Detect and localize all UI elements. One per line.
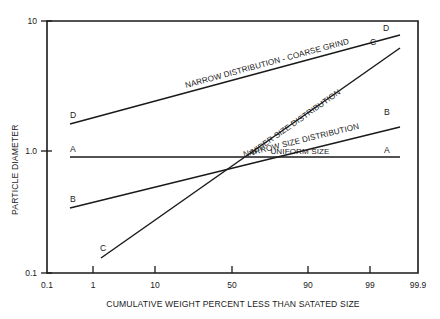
x-tick-label-0point1: 0.1	[41, 280, 53, 290]
chart-container: 10 1.0 0.1 PARTICLE DIAMETER 0.1 1 10 50…	[0, 0, 440, 319]
y-tick-label-1: 1.0	[25, 146, 37, 156]
x-tick-label-99: 99	[365, 280, 375, 290]
series-D-annotation: NARROW DISTRIBUTION - COARSE GRIND	[184, 37, 350, 90]
particle-size-distribution-chart: 10 1.0 0.1 PARTICLE DIAMETER 0.1 1 10 50…	[0, 0, 440, 319]
x-tick-label-10: 10	[150, 280, 160, 290]
plot-border	[47, 21, 418, 273]
x-tick-label-50: 50	[227, 280, 237, 290]
series-A-label-right: A	[384, 145, 390, 155]
series-D-line	[70, 35, 400, 124]
series-B-label-right: B	[384, 107, 390, 117]
x-axis-title: CUMULATIVE WEIGHT PERCENT LESS THAN SATA…	[106, 299, 360, 309]
series-D-label-left: D	[70, 110, 76, 120]
x-axis-tick-labels: 0.1 1 10 50 90 99 99.9	[41, 280, 426, 290]
x-tick-label-99point9: 99.9	[410, 280, 427, 290]
series-D: D D NARROW DISTRIBUTION - COARSE GRIND	[70, 23, 400, 124]
series-C-label-right: C	[370, 37, 376, 47]
series-B-label-left: B	[70, 194, 76, 204]
series-A: A A UNIFORM SIZE	[70, 144, 400, 157]
series-B-line	[70, 127, 400, 208]
plot-frame	[47, 21, 418, 273]
y-tick-label-0point1: 0.1	[25, 268, 37, 278]
x-tick-label-90: 90	[303, 280, 313, 290]
y-axis-title: PARTICLE DIAMETER	[10, 124, 20, 215]
series-A-label-left: A	[70, 144, 76, 154]
x-axis-ticks	[93, 266, 370, 273]
series-A-annotation: UNIFORM SIZE	[270, 147, 330, 156]
y-axis-tick-labels: 10 1.0 0.1	[25, 16, 37, 278]
series-C-label-left: C	[100, 243, 106, 253]
series-D-label-right: D	[383, 23, 389, 33]
y-tick-label-10: 10	[28, 16, 38, 26]
x-tick-label-1: 1	[91, 280, 96, 290]
